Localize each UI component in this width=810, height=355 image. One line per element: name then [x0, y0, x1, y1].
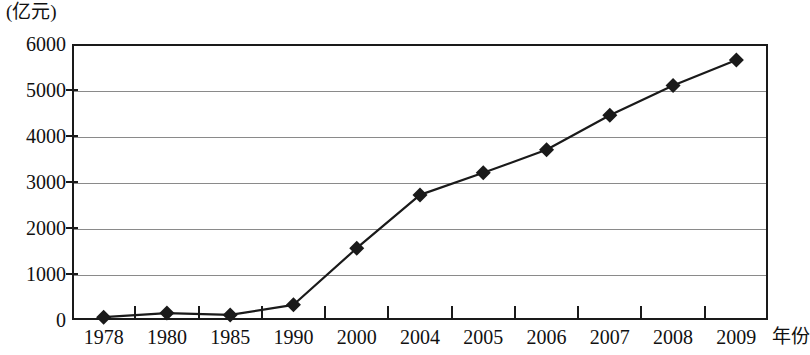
- x-tick-mark: [451, 306, 453, 320]
- gridline: [74, 137, 766, 138]
- y-tick-mark: [66, 135, 78, 137]
- y-tick-mark: [66, 181, 78, 183]
- y-tick-mark: [66, 273, 78, 275]
- x-tick-mark: [198, 306, 200, 320]
- x-tick-mark: [514, 306, 516, 320]
- gridline: [74, 275, 766, 276]
- y-tick-mark: [66, 89, 78, 91]
- gridline: [74, 91, 766, 92]
- y-tick-label: 0: [0, 310, 66, 330]
- x-tick-mark: [704, 306, 706, 320]
- x-axis-title: 年份: [772, 326, 810, 348]
- gridline: [74, 229, 766, 230]
- y-tick-label: 2000: [0, 218, 66, 238]
- x-tick-mark: [134, 306, 136, 320]
- x-tick-mark: [640, 306, 642, 320]
- y-tick-label: 6000: [0, 34, 66, 54]
- x-tick-label: 2009: [691, 326, 781, 348]
- y-tick-mark: [66, 227, 78, 229]
- y-tick-label: 4000: [0, 126, 66, 146]
- y-tick-label: 3000: [0, 172, 66, 192]
- x-tick-mark: [387, 306, 389, 320]
- y-axis-unit-label: (亿元): [6, 2, 57, 22]
- x-tick-mark: [261, 306, 263, 320]
- gridline: [74, 183, 766, 184]
- plot-area: [72, 44, 768, 320]
- x-tick-mark: [324, 306, 326, 320]
- x-tick-mark: [577, 306, 579, 320]
- y-tick-label: 1000: [0, 264, 66, 284]
- y-tick-label: 5000: [0, 80, 66, 100]
